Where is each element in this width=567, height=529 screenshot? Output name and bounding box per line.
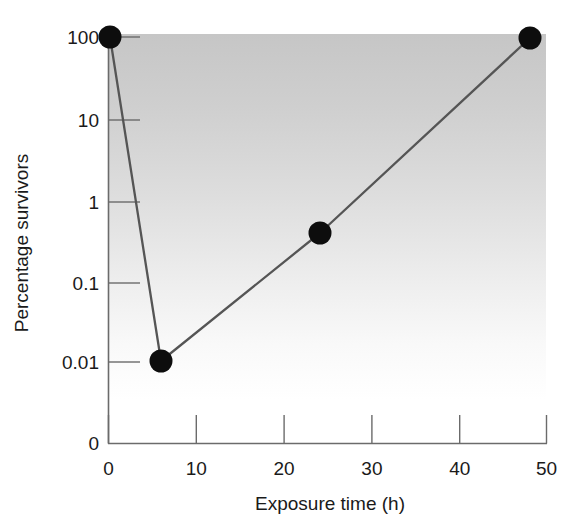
y-axis-title: Percentage survivors bbox=[11, 154, 32, 332]
y-tick-label-1: 1 bbox=[88, 192, 99, 213]
y-tick-label-100: 100 bbox=[67, 27, 99, 48]
survival-curve-chart: 100 10 1 0.1 0.01 0 Percentage survivors… bbox=[0, 0, 567, 529]
x-tick-label-10: 10 bbox=[186, 458, 207, 479]
y-tick-label-0: 0 bbox=[88, 433, 99, 454]
x-tick-label-0: 0 bbox=[103, 458, 114, 479]
y-tick-label-0.1: 0.1 bbox=[73, 273, 99, 294]
x-axis-title: Exposure time (h) bbox=[255, 493, 405, 514]
data-point bbox=[309, 222, 332, 245]
x-tick-label-20: 20 bbox=[274, 458, 295, 479]
y-tick-label-10: 10 bbox=[78, 110, 99, 131]
data-point bbox=[150, 350, 173, 373]
x-tick-label-50: 50 bbox=[536, 458, 557, 479]
data-point bbox=[519, 27, 542, 50]
x-axis: 0 10 20 30 40 50 Exposure time (h) bbox=[103, 415, 557, 514]
x-tick-label-30: 30 bbox=[361, 458, 382, 479]
plot-background-shade bbox=[109, 34, 546, 400]
y-tick-label-0.01: 0.01 bbox=[62, 352, 99, 373]
data-point bbox=[99, 26, 122, 49]
x-tick-label-40: 40 bbox=[449, 458, 470, 479]
